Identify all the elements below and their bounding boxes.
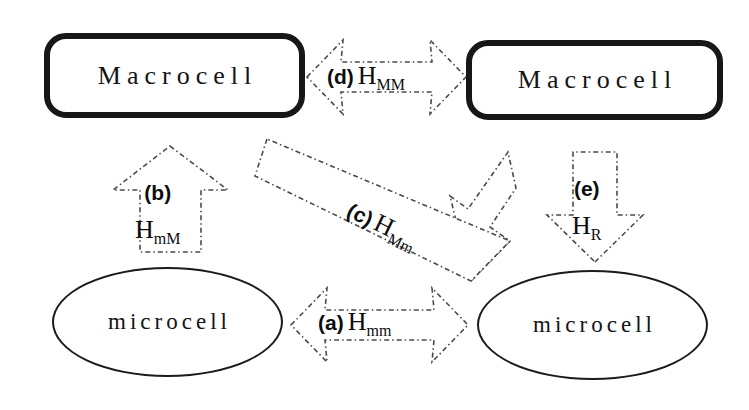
edge-symbol-e-base: H [572, 211, 591, 240]
diagram-canvas: Macrocell Macrocell microcell microcell … [0, 0, 749, 410]
edge-label-e: (e) HR [572, 178, 601, 244]
node-microcell-right[interactable]: microcell [477, 270, 708, 380]
edge-tag-a: (a) [318, 311, 344, 334]
edge-symbol-e-sub: R [591, 226, 602, 243]
edge-symbol-e: HR [572, 212, 601, 244]
edge-label-d: (d) HMM [327, 62, 405, 94]
node-macrocell-right-label: Macrocell [512, 65, 677, 95]
edge-symbol-d-base: H [358, 61, 377, 90]
edge-tag-d: (d) [327, 65, 354, 88]
edge-symbol-b-base: H [135, 215, 154, 244]
edge-label-a: (a) Hmm [318, 308, 391, 340]
edge-tag-b: (b) [135, 182, 180, 204]
edge-symbol-a-base: H [348, 307, 367, 336]
edge-symbol-d: HMM [358, 61, 405, 90]
edge-symbol-a: Hmm [348, 307, 392, 336]
node-microcell-left[interactable]: microcell [52, 267, 283, 377]
edge-tag-e: (e) [572, 178, 601, 200]
node-microcell-right-label: microcell [529, 312, 656, 338]
edge-symbol-b: HmM [135, 216, 180, 248]
node-microcell-left-label: microcell [104, 309, 231, 335]
edge-symbol-a-sub: mm [366, 322, 391, 339]
edge-symbol-d-sub: MM [377, 76, 405, 93]
node-macrocell-left-label: Macrocell [92, 61, 257, 91]
node-macrocell-right[interactable]: Macrocell [466, 40, 723, 120]
edge-label-b: (b) HmM [135, 182, 180, 248]
edge-symbol-b-sub: mM [154, 230, 181, 247]
node-macrocell-left[interactable]: Macrocell [44, 33, 305, 118]
